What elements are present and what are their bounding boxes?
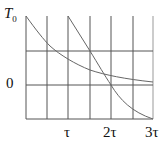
- chart-plot: [0, 0, 165, 145]
- y-label-t0: T0: [4, 6, 17, 24]
- x-label-tau: τ: [64, 125, 70, 140]
- x-label-3tau: 3τ: [145, 125, 159, 140]
- grid: [26, 16, 153, 119]
- y-label-zero: 0: [6, 76, 14, 91]
- x-label-2tau: 2τ: [103, 125, 117, 140]
